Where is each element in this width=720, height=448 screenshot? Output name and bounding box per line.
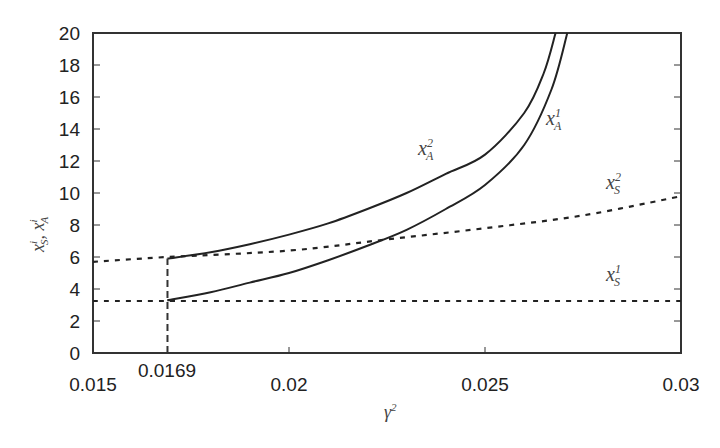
label-xA2: x2A: [417, 136, 434, 163]
y-tick-label: 4: [69, 279, 80, 300]
series-group: [93, 33, 681, 301]
y-tick-label: 20: [59, 23, 80, 44]
y-tick-label: 6: [69, 247, 80, 268]
y-tick-label: 8: [69, 215, 80, 236]
series-x-a1: [167, 33, 567, 300]
y-axis-title: xiS, xiA: [27, 216, 50, 253]
label-xS2: x2S: [605, 170, 621, 197]
y-axis-tick-labels: 02468101214161820: [59, 23, 81, 364]
y-tick-label: 14: [59, 119, 81, 140]
x-tick-label: 0.025: [461, 374, 509, 395]
y-tick-label: 12: [59, 151, 80, 172]
series-x-s2: [93, 196, 681, 262]
chart: 02468101214161820 0.0150.020.0250.03 0.0…: [0, 0, 720, 448]
label-xA1: x1A: [545, 106, 562, 133]
series-x-a2: [167, 33, 555, 259]
y-tick-label: 0: [69, 343, 80, 364]
x-tick-label: 0.02: [271, 374, 308, 395]
y-tick-label: 10: [59, 183, 80, 204]
y-axis-ticks: [93, 33, 681, 353]
label-xS1: x1S: [605, 262, 621, 289]
y-tick-label: 2: [69, 311, 80, 332]
x-tick-label: 0.015: [69, 374, 117, 395]
plot-frame: [93, 33, 681, 353]
marker-label: 0.0169: [138, 360, 196, 381]
y-tick-label: 16: [59, 87, 80, 108]
x-axis-title: γ2: [384, 401, 397, 422]
y-tick-label: 18: [59, 55, 80, 76]
x-tick-label: 0.03: [663, 374, 700, 395]
